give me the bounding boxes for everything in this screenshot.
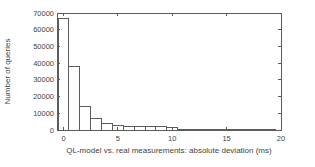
x-tick-label: 15 [222,134,230,143]
histogram-bar [80,107,91,130]
histogram-bar [123,127,134,130]
y-tick-label: 30000 [33,75,54,84]
histogram-bar [145,127,156,130]
histogram-bar [69,66,80,130]
histogram-chart: 0100002000030000400005000060000700000510… [0,0,315,167]
histogram-bar [91,118,102,130]
x-tick-label: 5 [116,134,120,143]
x-tick-label: 20 [277,134,285,143]
y-tick-label: 70000 [33,9,54,18]
y-axis-label: Number of queries [3,39,12,105]
y-tick-label: 50000 [33,42,54,51]
histogram-bars [58,18,275,130]
y-tick-label: 10000 [33,109,54,118]
x-tick-label: 0 [61,134,65,143]
y-tick-label: 60000 [33,25,54,34]
y-tick-label: 20000 [33,92,54,101]
histogram-figure: 0100002000030000400005000060000700000510… [0,0,315,167]
x-tick-label: 10 [168,134,176,143]
x-axis-label: QL-model vs. real measurements: absolute… [66,146,272,155]
y-tick-label: 0 [50,126,54,135]
y-tick-label: 40000 [33,59,54,68]
histogram-bar [102,123,113,130]
